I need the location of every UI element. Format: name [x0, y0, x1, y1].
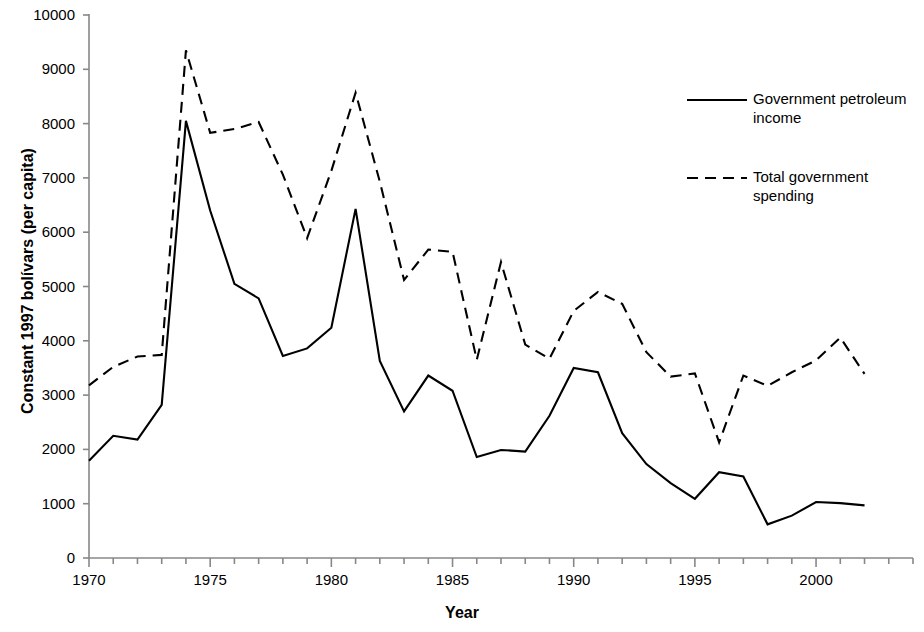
- legend-swatches: [687, 100, 747, 178]
- series-line-2: [89, 50, 865, 442]
- legend-label-line1: Government petroleum: [753, 90, 906, 107]
- legend-label-line2: spending: [753, 187, 814, 204]
- legend-label-line2: income: [753, 109, 801, 126]
- data-series: [89, 50, 865, 524]
- legend-label-line1: Total government: [753, 168, 868, 185]
- chart-figure: Constant 1997 bolívars (per capita) Year…: [0, 0, 924, 632]
- legend-label-2: Total governmentspending: [753, 167, 924, 205]
- series-line-1: [89, 121, 865, 524]
- legend-label-1: Government petroleumincome: [753, 89, 924, 127]
